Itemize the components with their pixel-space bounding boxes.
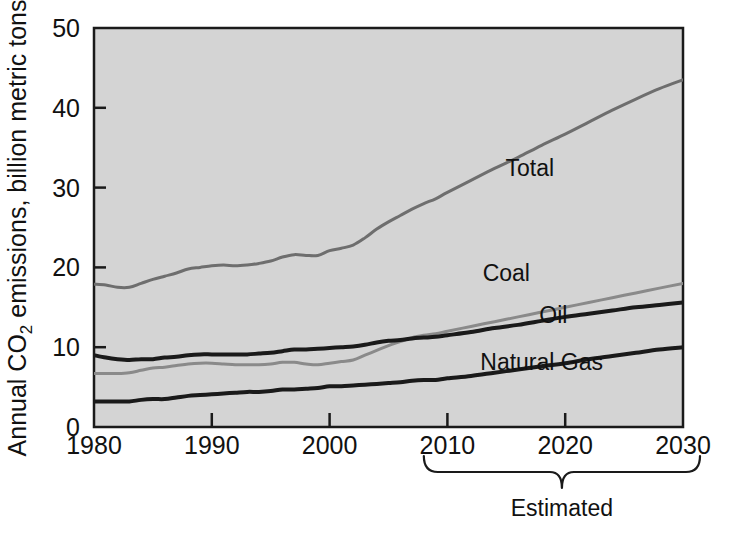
estimated-brace-label: Estimated <box>511 495 613 521</box>
y-tick-label-40: 40 <box>52 94 80 122</box>
x-tick-label-2010: 2010 <box>420 431 476 459</box>
x-axis-tick-labels: 198019902000201020202030 <box>66 431 711 459</box>
y-tick-label-10: 10 <box>52 333 80 361</box>
series-label-total: Total <box>506 155 555 181</box>
y-tick-label-20: 20 <box>52 253 80 281</box>
y-tick-label-30: 30 <box>52 174 80 202</box>
x-tick-label-2020: 2020 <box>537 431 593 459</box>
y-tick-label-50: 50 <box>52 14 80 42</box>
y-axis-title: Annual CO2 emissions, billion metric ton… <box>3 0 36 456</box>
x-tick-label-2030: 2030 <box>655 431 711 459</box>
series-label-coal: Coal <box>483 260 530 286</box>
x-tick-label-2000: 2000 <box>302 431 358 459</box>
x-tick-label-1990: 1990 <box>184 431 240 459</box>
series-label-natural-gas: Natural Gas <box>480 349 603 375</box>
y-axis-tick-labels: 01020304050 <box>52 14 80 441</box>
x-tick-label-1980: 1980 <box>66 431 122 459</box>
chart-figure: 01020304050 198019902000201020202030 Tot… <box>0 0 731 539</box>
series-label-oil: Oil <box>539 302 567 328</box>
estimated-brace <box>424 456 700 488</box>
co2-emissions-line-chart: 01020304050 198019902000201020202030 Tot… <box>0 0 731 539</box>
